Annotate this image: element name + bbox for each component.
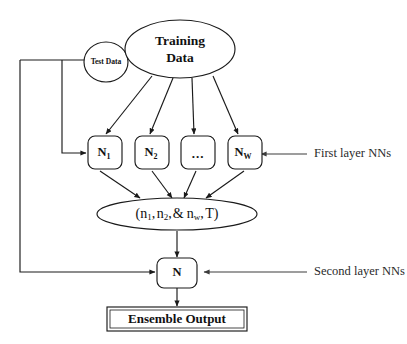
- edge-test-data-to-n1: [62, 60, 86, 153]
- test-data-label: Test Data: [91, 57, 122, 66]
- second-layer-node-label: N: [172, 265, 181, 279]
- training-data-label-line2: Data: [166, 50, 194, 65]
- edge-training-data-to-nw: [213, 76, 238, 134]
- edge-nw-to-aggregate: [206, 171, 244, 198]
- first-layer-node-ellipsis-label: ...: [192, 146, 205, 161]
- training-data-label-line1: Training: [155, 33, 205, 48]
- edge-n2-to-aggregate: [152, 171, 172, 198]
- ensemble-nn-diagram: Test Data Training Data N1 N2 ... NW (n1…: [0, 0, 407, 344]
- second-layer-annotation: Second layer NNs: [314, 264, 405, 278]
- edge-ellipsis-to-aggregate: [184, 171, 196, 198]
- edge-training-data-to-n1: [106, 76, 152, 134]
- edge-training-data-to-ellipsis: [192, 78, 194, 134]
- first-layer-annotation: First layer NNs: [314, 146, 391, 160]
- ensemble-output-label: Ensemble Output: [128, 311, 227, 326]
- edge-training-data-to-n2: [150, 78, 173, 134]
- edge-n1-to-aggregate: [100, 171, 140, 198]
- training-data-ellipse: [125, 20, 235, 78]
- diagram-canvas: Test Data Training Data N1 N2 ... NW (n1…: [0, 0, 407, 344]
- edge-test-data-to-second-layer-node: [20, 60, 155, 272]
